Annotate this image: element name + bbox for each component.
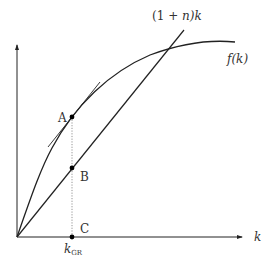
x-axis-label: k xyxy=(254,230,261,244)
kgr-main: k xyxy=(64,242,71,256)
line-label-prefix: (1 + xyxy=(152,9,182,23)
point-a-label: A xyxy=(57,111,67,125)
kgr-subscript: GR xyxy=(71,249,83,257)
point-a-marker xyxy=(70,115,75,120)
line-label-var: n xyxy=(182,9,190,23)
production-function-curve xyxy=(17,41,235,237)
point-c-label: C xyxy=(80,222,89,236)
kgr-label: kGR xyxy=(64,242,83,257)
production-curve-label: f(k) xyxy=(226,52,248,66)
diagram-canvas: A B C k kGR f(k) (1 + n)k xyxy=(0,0,271,265)
golden-rule-diagram: A B C k kGR f(k) (1 + n)k xyxy=(0,0,271,265)
tangent-line xyxy=(48,82,100,147)
point-c-marker xyxy=(70,235,75,240)
line-label-suffix: )k xyxy=(189,9,202,23)
line-label: (1 + n)k xyxy=(152,9,202,23)
depreciation-line xyxy=(17,30,184,237)
point-b-label: B xyxy=(80,170,89,184)
point-b-marker xyxy=(70,166,75,171)
